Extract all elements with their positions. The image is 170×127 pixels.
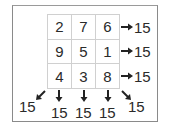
arrow-right-icon — [121, 47, 133, 55]
column-sum-3: 15 — [99, 105, 116, 120]
cell-r1c1: 2 — [48, 15, 72, 40]
arrow-down-icon — [104, 90, 112, 102]
arrow-right-icon — [121, 23, 133, 31]
arrow-down-icon — [55, 90, 63, 102]
row-sum-3: 15 — [121, 68, 151, 84]
diagonal-main-sum: 15 — [128, 99, 145, 114]
row-sum-value: 15 — [134, 20, 151, 35]
column-sum-1: 15 — [51, 105, 68, 120]
row-sum-1: 15 — [121, 19, 151, 35]
cell-r1c3: 6 — [96, 15, 120, 40]
row-sum-value: 15 — [134, 44, 151, 59]
column-sum-2: 15 — [75, 105, 92, 120]
cell-r3c3: 8 — [96, 64, 120, 89]
arrow-down-icon — [80, 90, 88, 102]
cell-r2c3: 1 — [96, 40, 120, 65]
cell-r2c1: 9 — [48, 40, 72, 65]
cell-r2c2: 5 — [72, 40, 96, 65]
arrow-right-icon — [121, 72, 133, 80]
magic-square-grid: 2 7 6 9 5 1 4 3 8 — [47, 14, 120, 89]
row-sum-value: 15 — [134, 69, 151, 84]
diagonal-anti-sum: 15 — [19, 99, 36, 114]
cell-r3c1: 4 — [48, 64, 72, 89]
cell-r1c2: 7 — [72, 15, 96, 40]
row-sum-2: 15 — [121, 43, 151, 59]
arrow-down-left-icon — [36, 90, 46, 100]
cell-r3c2: 3 — [72, 64, 96, 89]
